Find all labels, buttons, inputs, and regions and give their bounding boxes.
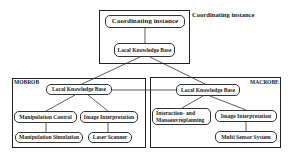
mobrob-image-interpretation-node: Image Interpretation [80, 111, 138, 123]
macrobe-title: MACROBE [250, 79, 279, 85]
coordinating-instance-node: Coordinating instance [105, 15, 185, 28]
macrobe-knowledge-base-node: Local Knowledge Base [176, 84, 240, 96]
interaction-manoeuvreplanning-node: Interaction- and Manoeuvreplanning [152, 108, 211, 125]
top-knowledge-base-node: Local Knowledge Base [114, 43, 175, 57]
coordinating-side-label: Coordinating instance [192, 11, 254, 18]
manipulation-simulation-node: Manipulation Simulation [15, 132, 83, 143]
interaction-line-2: Manoeuvreplanning [156, 117, 204, 123]
laser-scanner-node: Laser Scanner [88, 132, 132, 143]
mobrob-title: MOBROB [14, 79, 39, 85]
manipulation-control-node: Manipulation Control [14, 111, 77, 123]
macrobe-image-interpretation-node: Image Interpretation [215, 110, 277, 122]
mobrob-knowledge-base-node: Local Knowledge Base [46, 84, 112, 95]
multi-sensor-system-node: Multi Sensor System [215, 131, 277, 143]
